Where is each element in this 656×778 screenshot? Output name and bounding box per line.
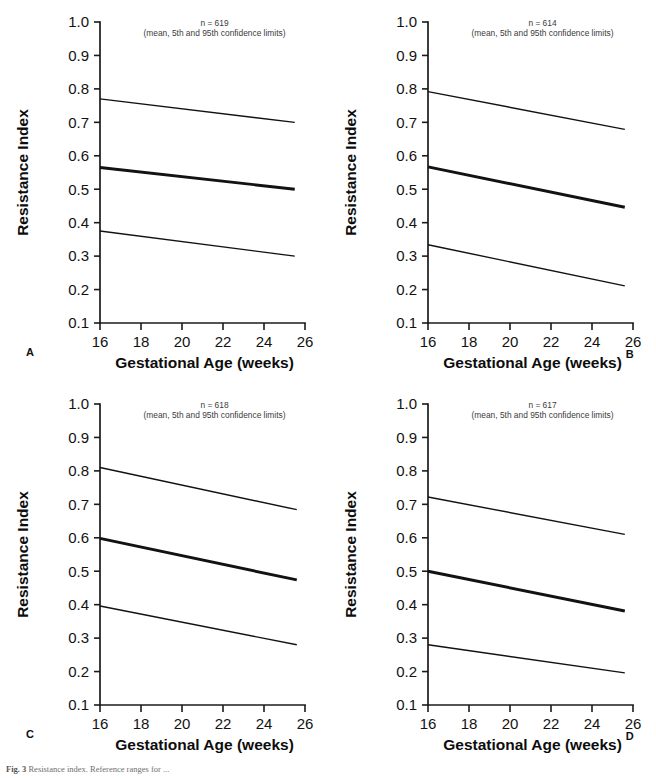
y-tick-label: 0.3 <box>68 247 89 264</box>
y-tick-label: 0.2 <box>68 281 89 298</box>
y-tick-label: 0.6 <box>68 147 89 164</box>
chart-panel-a: 0.10.20.30.40.50.60.70.80.91.01618202224… <box>0 0 328 380</box>
chart-panel-c: 0.10.20.30.40.50.60.70.80.91.01618202224… <box>0 382 328 762</box>
series-line-5th-confidence-limit <box>428 245 625 286</box>
y-axis-title: Resistance Index <box>14 109 31 236</box>
y-tick-label: 0.3 <box>396 629 417 646</box>
y-tick-label: 0.2 <box>396 281 417 298</box>
x-tick-label: 24 <box>256 715 273 732</box>
sample-size-label: n = 614 <box>528 18 557 28</box>
x-tick-label: 20 <box>174 333 191 350</box>
y-tick-label: 0.1 <box>68 314 89 331</box>
x-tick-label: 26 <box>297 715 314 732</box>
x-axis-title: Gestational Age (weeks) <box>443 736 622 753</box>
y-tick-label: 0.9 <box>396 429 417 446</box>
y-tick-label: 1.0 <box>68 13 89 30</box>
x-tick-label: 20 <box>502 715 519 732</box>
chart-b-svg: 0.10.20.30.40.50.60.70.80.91.01618202224… <box>328 0 656 380</box>
y-tick-label: 0.9 <box>68 47 89 64</box>
y-tick-label: 0.7 <box>396 114 417 131</box>
chart-d-svg: 0.10.20.30.40.50.60.70.80.91.01618202224… <box>328 382 656 762</box>
y-tick-label: 0.5 <box>396 563 417 580</box>
confidence-limits-note: (mean, 5th and 95th confidence limits) <box>144 410 286 420</box>
x-tick-label: 16 <box>420 333 437 350</box>
y-tick-label: 0.5 <box>68 181 89 198</box>
x-tick-label: 24 <box>584 333 601 350</box>
x-tick-label: 18 <box>461 333 478 350</box>
series-line-mean <box>100 538 297 579</box>
y-tick-label: 0.3 <box>396 247 417 264</box>
y-tick-label: 0.3 <box>68 629 89 646</box>
panel-label-a: A <box>26 346 34 358</box>
x-tick-label: 16 <box>92 715 109 732</box>
x-tick-label: 20 <box>502 333 519 350</box>
panel-label-c: C <box>26 728 34 740</box>
x-tick-label: 22 <box>543 333 560 350</box>
y-axis-title: Resistance Index <box>342 491 359 618</box>
y-tick-label: 0.6 <box>396 529 417 546</box>
y-tick-label: 0.6 <box>68 529 89 546</box>
x-axis-title: Gestational Age (weeks) <box>115 736 294 753</box>
y-tick-label: 0.4 <box>396 214 417 231</box>
y-tick-label: 0.4 <box>68 214 89 231</box>
series-line-mean <box>428 167 625 207</box>
y-tick-label: 0.6 <box>396 147 417 164</box>
figure-caption-prefix: Fig. 3 <box>6 764 26 774</box>
figure-caption: Fig. 3 Resistance index. Reference range… <box>6 764 652 774</box>
y-tick-label: 0.1 <box>396 314 417 331</box>
confidence-limits-note: (mean, 5th and 95th confidence limits) <box>144 28 286 38</box>
y-tick-label: 0.1 <box>68 696 89 713</box>
chart-a-svg: 0.10.20.30.40.50.60.70.80.91.01618202224… <box>0 0 328 380</box>
y-tick-label: 0.8 <box>68 462 89 479</box>
confidence-limits-note: (mean, 5th and 95th confidence limits) <box>472 410 614 420</box>
series-line-mean <box>428 571 625 611</box>
x-tick-label: 24 <box>256 333 273 350</box>
y-tick-label: 0.8 <box>396 80 417 97</box>
y-tick-label: 0.5 <box>68 563 89 580</box>
series-line-95th-confidence-limit <box>428 92 625 130</box>
panel-label-b: B <box>626 348 634 360</box>
panel-label-d: D <box>626 730 634 742</box>
y-axis-title: Resistance Index <box>14 491 31 618</box>
y-tick-label: 0.7 <box>68 496 89 513</box>
x-tick-label: 18 <box>133 333 150 350</box>
chart-panel-b: 0.10.20.30.40.50.60.70.80.91.01618202224… <box>328 0 656 380</box>
x-tick-label: 22 <box>543 715 560 732</box>
x-tick-label: 24 <box>584 715 601 732</box>
y-tick-label: 0.7 <box>68 114 89 131</box>
chart-panel-d: 0.10.20.30.40.50.60.70.80.91.01618202224… <box>328 382 656 762</box>
y-tick-label: 0.1 <box>396 696 417 713</box>
series-line-5th-confidence-limit <box>100 606 297 645</box>
y-tick-label: 1.0 <box>68 395 89 412</box>
x-tick-label: 18 <box>133 715 150 732</box>
series-line-95th-confidence-limit <box>428 497 625 534</box>
y-tick-label: 0.8 <box>68 80 89 97</box>
series-line-mean <box>100 167 295 189</box>
x-tick-label: 22 <box>215 333 232 350</box>
y-tick-label: 1.0 <box>396 13 417 30</box>
confidence-limits-note: (mean, 5th and 95th confidence limits) <box>472 28 614 38</box>
x-tick-label: 22 <box>215 715 232 732</box>
y-tick-label: 0.7 <box>396 496 417 513</box>
x-tick-label: 16 <box>92 333 109 350</box>
chart-c-svg: 0.10.20.30.40.50.60.70.80.91.01618202224… <box>0 382 328 762</box>
series-line-5th-confidence-limit <box>100 231 295 256</box>
y-tick-label: 1.0 <box>396 395 417 412</box>
x-axis-title: Gestational Age (weeks) <box>115 354 294 371</box>
y-tick-label: 0.8 <box>396 462 417 479</box>
figure-sheet: 0.10.20.30.40.50.60.70.80.91.01618202224… <box>0 0 656 778</box>
y-tick-label: 0.4 <box>68 596 89 613</box>
y-tick-label: 0.9 <box>68 429 89 446</box>
y-tick-label: 0.2 <box>68 663 89 680</box>
sample-size-label: n = 619 <box>200 18 229 28</box>
figure-caption-text: Resistance index. Reference ranges for .… <box>28 764 169 774</box>
sample-size-label: n = 618 <box>200 400 229 410</box>
y-tick-label: 0.9 <box>396 47 417 64</box>
y-tick-label: 0.2 <box>396 663 417 680</box>
x-tick-label: 20 <box>174 715 191 732</box>
sample-size-label: n = 617 <box>528 400 557 410</box>
series-line-95th-confidence-limit <box>100 468 297 510</box>
x-axis-title: Gestational Age (weeks) <box>443 354 622 371</box>
y-tick-label: 0.5 <box>396 181 417 198</box>
x-tick-label: 26 <box>297 333 314 350</box>
